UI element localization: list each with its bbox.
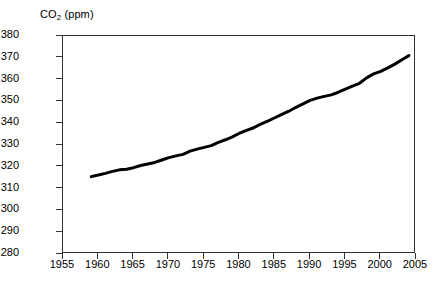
x-tick-label: 1960	[77, 259, 117, 270]
x-tick-label: 1975	[183, 259, 223, 270]
x-tick-label: 2000	[360, 259, 400, 270]
chart-figure: CO2 (ppm) 280290300310320330340350360370…	[0, 0, 433, 291]
x-tick-label: 1995	[324, 259, 364, 270]
x-tick-label: 1965	[113, 259, 153, 270]
x-tick-label: 1990	[289, 259, 329, 270]
plot-area	[62, 35, 415, 253]
x-tick-label: 1985	[254, 259, 294, 270]
x-tick-label: 1980	[219, 259, 259, 270]
x-tick-label: 1955	[42, 259, 82, 270]
x-tick-label: 1970	[148, 259, 188, 270]
co2-trend-line	[91, 56, 409, 177]
data-line-svg	[63, 36, 416, 254]
x-tick-label: 2005	[395, 259, 433, 270]
